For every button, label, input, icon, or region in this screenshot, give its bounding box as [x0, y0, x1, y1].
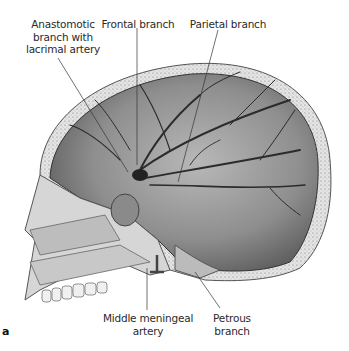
label-line: Anastomotic	[18, 18, 108, 31]
label-line: Middle meningeal	[102, 312, 194, 325]
label-frontal-branch: Frontal branch	[96, 18, 180, 31]
label-line: artery	[102, 325, 194, 338]
label-anastomotic-branch: Anastomotic branch with lacrimal artery	[18, 18, 108, 56]
panel-letter: a	[2, 325, 9, 338]
label-middle-meningeal-artery: Middle meningeal artery	[102, 312, 194, 337]
label-line: lacrimal artery	[18, 43, 108, 56]
label-line: branch with	[18, 31, 108, 44]
label-petrous-branch: Petrous branch	[194, 312, 270, 337]
teeth	[42, 282, 107, 302]
label-parietal-branch: Parietal branch	[186, 18, 270, 31]
